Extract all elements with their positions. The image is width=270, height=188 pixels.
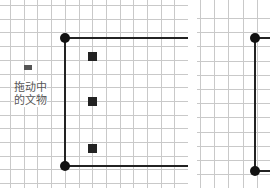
label-line-1: 拖动中 xyxy=(14,81,47,94)
grid-line xyxy=(0,46,188,47)
grid-line xyxy=(133,0,134,188)
label-line-2: 的文物 xyxy=(14,94,47,107)
grid-line xyxy=(10,0,11,188)
grid-line xyxy=(51,0,52,188)
corner-node-bottom[interactable] xyxy=(60,161,70,171)
grid-line xyxy=(197,75,270,76)
grid-line xyxy=(0,128,188,129)
grid-line xyxy=(0,5,188,6)
grid-line xyxy=(197,46,270,47)
artifact-marker-3[interactable] xyxy=(88,144,97,153)
grid-line xyxy=(147,0,148,188)
grid-line xyxy=(197,103,270,104)
right-grid-panel xyxy=(197,0,270,188)
grid-line xyxy=(0,183,188,184)
grid-line xyxy=(0,19,188,20)
grid-line xyxy=(197,160,270,161)
grid-line xyxy=(0,169,188,170)
grid-line xyxy=(197,146,270,147)
corner-node-bottom[interactable] xyxy=(250,166,260,176)
artifact-marker-2[interactable] xyxy=(88,97,97,106)
grid-line xyxy=(0,156,188,157)
grid-line xyxy=(161,0,162,188)
grid-line xyxy=(197,32,270,33)
dragging-artifact[interactable] xyxy=(24,65,32,70)
grid-line xyxy=(197,132,270,133)
left-boundary-line xyxy=(254,38,256,171)
top-boundary-line xyxy=(65,37,188,39)
grid-line xyxy=(174,0,175,188)
bottom-boundary-line xyxy=(65,165,188,167)
grid-line xyxy=(197,18,270,19)
grid-line xyxy=(79,0,80,188)
grid-line xyxy=(197,174,270,175)
corner-node-top[interactable] xyxy=(60,33,70,43)
grid-line xyxy=(0,74,188,75)
grid-line xyxy=(197,117,270,118)
grid-line xyxy=(92,0,93,188)
grid-line xyxy=(0,32,188,33)
artifact-marker-1[interactable] xyxy=(88,52,97,61)
dragging-artifact-label: 拖动中 的文物 xyxy=(14,81,47,107)
grid-line xyxy=(106,0,107,188)
grid-line xyxy=(0,142,188,143)
grid-line xyxy=(197,61,270,62)
corner-node-top[interactable] xyxy=(250,33,260,43)
left-boundary-line xyxy=(64,38,66,166)
grid-line xyxy=(120,0,121,188)
grid-line xyxy=(0,115,188,116)
left-grid-panel: 拖动中 的文物 xyxy=(0,0,188,188)
grid-line xyxy=(197,89,270,90)
